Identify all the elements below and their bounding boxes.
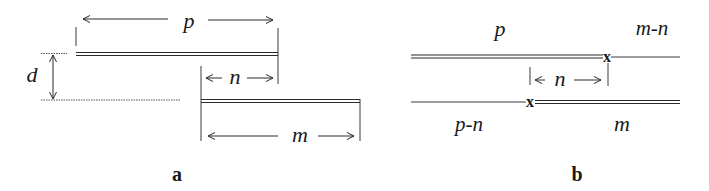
upper-right-label: m-n	[636, 16, 669, 40]
n-label: n	[230, 64, 241, 89]
offset-n: n	[530, 63, 608, 91]
dimension-p: p	[76, 8, 278, 84]
p-label: p	[182, 8, 195, 33]
dimension-m: m	[208, 99, 360, 147]
lower-bar-m	[201, 100, 360, 103]
upper-crossover-mark: x	[603, 48, 611, 65]
offset-n-label: n	[555, 66, 566, 91]
lower-right-label: m	[614, 111, 630, 136]
upper-strand: x p m-n	[411, 16, 680, 65]
panel-b-label: b	[571, 163, 582, 185]
overlap-diagram: p d n	[0, 0, 709, 191]
d-label: d	[27, 62, 39, 87]
lower-crossover-mark: x	[526, 93, 534, 110]
lower-left-label: p-n	[453, 112, 483, 136]
panel-b: x p m-n n x p-n m b	[411, 16, 680, 185]
dimension-d: d	[27, 54, 182, 101]
m-label: m	[292, 122, 308, 147]
lower-strand: x p-n m	[411, 93, 680, 136]
panel-a-label: a	[172, 163, 182, 185]
upper-bar-p	[76, 53, 278, 56]
upper-left-label: p	[493, 16, 506, 41]
panel-a: p d n	[27, 8, 361, 185]
